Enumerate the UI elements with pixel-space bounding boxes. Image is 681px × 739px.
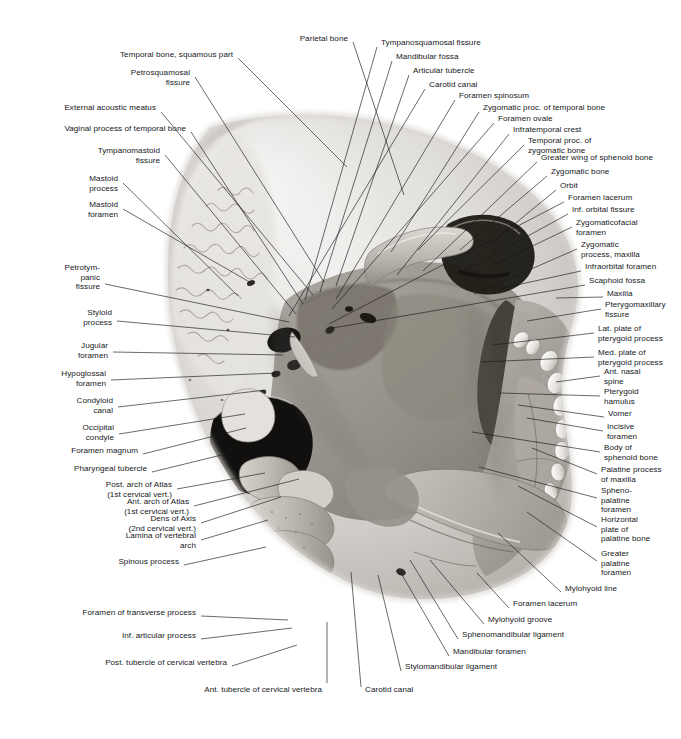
label-mandibular-foramen: Mandibular foramen — [453, 647, 526, 657]
label-foramen-spinosum: Foramen spinosum — [459, 91, 529, 101]
leader-line-infratemporal-crest — [397, 134, 509, 275]
label-infraorbital-foramen: Infraorbital foramen — [585, 262, 656, 272]
leader-line-foramen-magnum — [143, 428, 246, 454]
leader-line-zygomaticofacial-foramen — [487, 227, 572, 268]
label-greater-palatine-foramen: Greater palatine foramen — [601, 549, 631, 578]
label-scaphoid-fossa: Scaphoid fossa — [589, 276, 645, 286]
leader-line-spheno-palatine-foramen — [479, 467, 597, 498]
leader-line-ant-nasal-spine — [556, 376, 600, 382]
leader-line-hypoglossal-foramen — [111, 373, 277, 380]
leader-line-inf-articular-process — [201, 628, 292, 639]
leader-line-condyloid-canal — [118, 390, 266, 407]
label-mastoid-foramen: Mastoid foramen — [88, 200, 118, 219]
leader-line-styloid-process — [117, 321, 295, 337]
label-foramen-of-transverse-process: Foramen of transverse process — [83, 608, 196, 618]
leader-line-ant-arch-of-atlas — [194, 479, 299, 506]
label-foramen-lacerum-bottom: Foramen lacerum — [513, 599, 577, 609]
leader-line-petrosquamosal-fissure — [195, 77, 324, 282]
leader-line-greater-wing-of-sphenoid-bone — [423, 162, 537, 271]
leader-line-spinous-process — [184, 547, 266, 565]
leader-line-mandibular-foramen — [401, 573, 449, 656]
leader-line-temporal-bone-squamous-part — [238, 58, 347, 167]
label-external-acoustic-meatus: External acoustic meatus — [64, 103, 156, 113]
label-infratemporal-crest: Infratemporal crest — [513, 125, 581, 135]
leader-line-foramen-ovale — [332, 123, 494, 309]
leader-line-post-tubercle-of-cervical-vertebra — [232, 645, 297, 666]
label-stylomandibular-ligament: Stylomandibular ligament — [405, 662, 497, 672]
label-palatine-process-of-maxilla: Palatine process of maxilla — [601, 465, 662, 484]
leader-line-maxilla — [556, 297, 603, 298]
leader-line-lamina-of-vertebral-arch — [201, 520, 268, 540]
label-body-of-sphenoid-bone: Body of sphenoid bone — [604, 443, 658, 462]
label-inf-articular-process: Inf. articular process — [122, 631, 196, 641]
label-greater-wing-of-sphenoid-bone: Greater wing of sphenoid bone — [541, 153, 653, 163]
leader-line-incisive-foramen — [527, 418, 603, 431]
label-zygomatic-process-maxilla: Zygomatic process, maxilla — [581, 240, 640, 259]
leader-line-foramen-of-transverse-process — [201, 616, 288, 620]
leader-line-parietal-bone — [353, 42, 404, 195]
leader-line-tympanosquamosal-fissure — [305, 47, 377, 300]
leader-line-mylohyoid-line — [498, 533, 561, 592]
label-tympanosquamosal-fissure: Tympanosquamosal fissure — [381, 38, 481, 48]
leader-line-foramen-lacerum-bottom — [477, 573, 509, 608]
leader-line-orbit — [478, 190, 556, 254]
label-temporal-bone-squamous-part: Temporal bone, squamous part — [120, 50, 233, 60]
label-ant-nasal-spine: Ant. nasal spine — [604, 367, 641, 386]
leader-line-post-arch-of-atlas — [177, 473, 265, 489]
label-horizontal-plate-of-palatine-bone: Horizontal plate of palatine bone — [601, 515, 650, 544]
label-spinous-process: Spinous process — [118, 557, 179, 567]
leader-line-dens-of-axis — [201, 497, 281, 523]
leader-line-mandibular-fossa — [320, 61, 392, 292]
label-mylohyoid-line: Mylohyoid line — [565, 584, 617, 594]
label-zygomaticofacial-foramen: Zygomaticofacial foramen — [576, 218, 638, 237]
leader-line-inf-orbital-fissure — [466, 214, 568, 270]
label-tympanomastoid-fissure: Tympanomastoid fissure — [98, 146, 160, 165]
leader-line-mastoid-process — [123, 183, 238, 296]
label-inf-orbital-fissure: Inf. orbital fissure — [572, 205, 635, 215]
label-occipital-condyle: Occipital condyle — [83, 423, 115, 442]
leader-line-horizontal-plate-of-palatine-bone — [518, 486, 597, 527]
label-foramen-magnum: Foramen magnum — [71, 446, 138, 456]
label-carotid-canal-top: Carotid canal — [429, 80, 477, 90]
leader-line-mylohyoid-groove — [430, 560, 484, 624]
label-lamina-of-vertebral-arch: Lamina of vertebral arch — [126, 531, 196, 550]
leader-line-pharyngeal-tubercle — [152, 441, 279, 472]
label-pterygomaxillary-fissure: Pterygomaxillary fissure — [605, 300, 666, 319]
leader-line-zygomatic-bone — [460, 176, 547, 250]
label-petrosquamosal-fissure: Petrosquamosal fissure — [131, 68, 190, 87]
label-styloid-process: Styloid process — [83, 308, 112, 327]
label-foramen-ovale: Foramen ovale — [498, 114, 553, 124]
label-parietal-bone: Parietal bone — [300, 34, 348, 44]
label-articular-tubercle: Articular tubercle — [413, 66, 475, 76]
label-petrotympanic-fissure: Petrotym- panic fissure — [64, 263, 100, 292]
leader-line-tympanomastoid-fissure — [165, 155, 296, 314]
label-lat-plate-of-pterygoid-process: Lat. plate of pterygoid process — [598, 324, 663, 343]
label-vaginal-process-of-temporal-bone: Vaginal process of temporal bone — [64, 124, 186, 134]
leader-line-occipital-condyle — [119, 414, 245, 434]
leader-line-carotid-canal-top — [289, 89, 425, 316]
leader-line-body-of-sphenoid-bone — [472, 432, 600, 452]
label-sphenomandibular-ligament: Sphenomandibular ligament — [462, 630, 564, 640]
leader-line-temporal-proc-of-zygomatic-bone — [418, 145, 524, 250]
leader-line-greater-palatine-foramen — [527, 512, 597, 561]
label-pharyngeal-tubercle: Pharyngeal tubercle — [74, 464, 147, 474]
leader-line-petrotympanic-fissure — [105, 284, 289, 322]
label-jugular-foramen: Jugular foramen — [78, 341, 108, 360]
label-mylohyoid-groove: Mylohyoid groove — [488, 615, 552, 625]
label-foramen-lacerum-top: Foramen lacerum — [568, 193, 632, 203]
label-maxilla: Maxilla — [607, 289, 633, 299]
label-zygomatic-proc-of-temporal-bone: Zygomatic proc. of temporal bone — [483, 103, 605, 113]
leader-line-vomer — [518, 405, 604, 417]
leader-line-foramen-lacerum-top — [329, 202, 564, 324]
leader-line-sphenomandibular-ligament — [410, 560, 458, 639]
leader-line-palatine-process-of-maxilla — [532, 448, 597, 474]
label-mastoid-process: Mastoid process — [89, 174, 118, 193]
leader-line-vaginal-process-of-temporal-bone — [191, 132, 303, 304]
label-ant-tubercle-of-cervical-vertebra: Ant. tubercle of cervical vertebra — [204, 685, 322, 695]
leader-line-zygomatic-process-maxilla — [474, 249, 577, 294]
label-condyloid-canal: Condyloid canal — [77, 396, 113, 415]
anatomy-plate: Temporal bone, squamous partParietal bon… — [0, 0, 681, 739]
leader-line-foramen-spinosum — [336, 100, 455, 299]
leader-line-mastoid-foramen — [123, 209, 253, 284]
label-hypoglossal-foramen: Hypoglossal foramen — [61, 369, 106, 388]
